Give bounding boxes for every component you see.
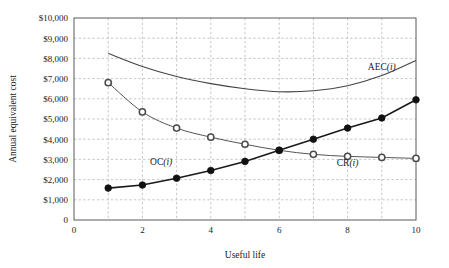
data-point-marker xyxy=(413,97,420,104)
data-point-marker xyxy=(242,158,249,165)
x-tick-label: 6 xyxy=(277,225,282,235)
data-point-marker xyxy=(344,125,351,132)
data-point-marker xyxy=(139,182,146,189)
y-tick-label: $7,000 xyxy=(43,74,68,84)
y-tick-label: $4,000 xyxy=(43,135,68,145)
data-point-marker xyxy=(208,134,214,140)
series-label-aec: AEC(i) xyxy=(368,62,396,73)
figure-container: 0$1,000$2,000$3,000$4,000$5,000$6,000$7,… xyxy=(0,0,449,268)
y-tick-label: $9,000 xyxy=(43,34,68,44)
data-point-marker xyxy=(208,167,215,174)
y-tick-label: $2,000 xyxy=(43,175,68,185)
y-tick-label: 0 xyxy=(64,215,69,225)
y-tick-label: $10,000 xyxy=(39,13,69,23)
data-point-marker xyxy=(105,80,111,86)
data-point-marker xyxy=(242,141,248,147)
data-point-marker xyxy=(173,175,180,182)
x-tick-label: 10 xyxy=(412,225,422,235)
annual-equivalent-cost-chart: 0$1,000$2,000$3,000$4,000$5,000$6,000$7,… xyxy=(0,0,449,268)
data-point-marker xyxy=(379,115,386,122)
y-tick-label: $8,000 xyxy=(43,54,68,64)
x-tick-label: 4 xyxy=(209,225,214,235)
y-axis-title: Annual equivalent cost xyxy=(8,75,18,163)
x-tick-label: 0 xyxy=(72,225,77,235)
series-label-cr: CR(i) xyxy=(337,158,359,169)
x-axis-title: Useful life xyxy=(225,250,265,260)
data-point-marker xyxy=(310,151,316,157)
series-label-oc: OC(i) xyxy=(150,157,172,168)
y-tick-label: $1,000 xyxy=(43,195,68,205)
data-point-marker xyxy=(276,147,283,154)
y-tick-label: $5,000 xyxy=(43,114,68,124)
data-point-marker xyxy=(174,125,180,131)
data-point-marker xyxy=(139,109,145,115)
data-point-marker xyxy=(310,136,317,143)
data-point-marker xyxy=(413,155,419,161)
x-tick-label: 2 xyxy=(140,225,145,235)
y-tick-label: $6,000 xyxy=(43,94,68,104)
data-point-marker xyxy=(379,154,385,160)
data-point-marker xyxy=(105,185,112,192)
y-tick-label: $3,000 xyxy=(43,155,68,165)
x-tick-label: 8 xyxy=(345,225,350,235)
